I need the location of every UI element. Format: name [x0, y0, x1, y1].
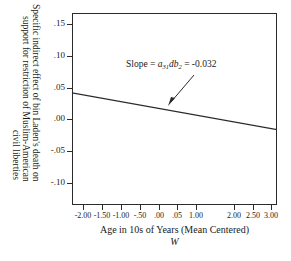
- y-axis-tick: [67, 151, 72, 152]
- x-axis-tick-label: -1.50: [94, 211, 111, 220]
- x-axis-title: Age in 10s of Years (Mean Centered): [72, 224, 277, 236]
- x-axis-tick: [102, 205, 103, 210]
- x-axis-tick-label: .00: [154, 211, 164, 220]
- x-axis-tick: [121, 205, 122, 210]
- slope-annotation: Slope = a31db2 = -0.032: [126, 58, 216, 73]
- x-axis-tick-label: -2.00: [75, 211, 92, 220]
- y-axis-tick-label: .00: [25, 114, 65, 123]
- x-axis-tick-label: 2.00: [227, 211, 241, 220]
- y-axis-tick: [67, 183, 72, 184]
- y-axis-tick-label: .15: [25, 19, 65, 28]
- coefficient-db: db: [169, 59, 179, 69]
- y-axis-title-line-2: support for restriction of Muslim-Americ…: [21, 16, 31, 182]
- y-axis-tick: [67, 24, 72, 25]
- x-axis-tick: [234, 205, 235, 210]
- x-axis-tick: [159, 205, 160, 210]
- y-axis-tick: [67, 88, 72, 89]
- y-axis-title-line-3: civil liberties: [11, 130, 21, 180]
- y-axis-tick: [67, 119, 72, 120]
- x-axis-tick-label: -.50: [134, 211, 147, 220]
- x-axis-tick-label: 2.50: [246, 211, 260, 220]
- x-axis-tick-label: 1.00: [189, 211, 203, 220]
- x-axis-tick-label: -1.00: [113, 211, 130, 220]
- figure-container: Specific indirect effect of bin Laden's …: [0, 0, 291, 261]
- slope-annotation-value: -0.032: [192, 59, 217, 69]
- slope-annotation-prefix: Slope =: [126, 59, 158, 69]
- annotation-arrow-head: [168, 97, 175, 106]
- y-axis-tick: [67, 56, 72, 57]
- y-axis-tick-label: .10: [25, 51, 65, 60]
- x-axis-tick: [83, 205, 84, 210]
- x-axis-tick: [196, 205, 197, 210]
- x-axis-tick: [271, 205, 272, 210]
- x-axis-tick: [253, 205, 254, 210]
- y-axis-tick-label: .05: [25, 83, 65, 92]
- x-axis-moderator-symbol: W: [72, 236, 277, 248]
- x-axis-tick: [140, 205, 141, 210]
- y-axis-tick-label: -.05: [25, 146, 65, 155]
- x-axis-tick-label: .05: [172, 211, 182, 220]
- x-axis-tick-label: 3.00: [264, 211, 278, 220]
- x-axis-tick: [177, 205, 178, 210]
- plot-graphics: [72, 13, 277, 205]
- slope-annotation-equals: =: [182, 59, 192, 69]
- clipped-title-remnant: [72, 0, 277, 3]
- y-axis-tick-label: -.10: [25, 178, 65, 187]
